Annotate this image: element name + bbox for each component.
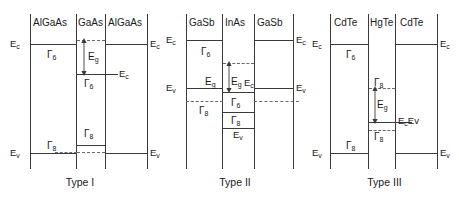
interface-line-outer-left [330,14,331,169]
spin-orbit-reference-dashed-left [186,101,223,102]
label-Ec-left-outer: Ec [10,39,20,50]
gamma-6-barrier-left: Γ6 [346,49,355,61]
conduction-edge-barrier-right [105,44,148,45]
gamma-6-barrier-left: Γ6 [201,46,210,58]
well-valence-reference-dashed [77,152,105,153]
conduction-edge-barrier-right [254,40,294,41]
gamma-8-well: Γ8 [231,115,240,127]
conduction-edge-barrier-right [395,44,438,45]
gamma-8-well-lower: Γ8 [374,131,383,143]
material-label-right: GaSb [257,17,283,28]
caption-type-i: Type I [0,176,160,188]
panel-type-ii: GaSb InAs GaSb Ec Ev Ec Ev Eg Eg Ec [160,0,310,198]
interface-line-inner-right [254,14,255,169]
label-Ev-right-outer: Ev [440,148,450,159]
label-Ec-right-outer: Ec [296,35,306,46]
gamma-8-well: Γ8 [84,128,93,140]
conduction-edge-barrier-left [30,44,77,45]
caption-type-iii: Type III [310,176,459,188]
valence-edge-well [77,145,105,146]
label-Ec-right-outer: Ec [150,39,160,50]
material-label-well: GaAs [78,17,103,28]
gamma-6-well: Γ6 [84,78,93,90]
material-label-well: InAs [225,17,245,28]
material-label-left: CdTe [334,17,357,28]
label-Ev-left-outer: Ev [166,83,176,94]
interface-line-outer-right [293,14,294,169]
gamma-6-barrier-left: Γ6 [47,49,56,61]
band-diagram-figure: AlGaAs GaAs AlGaAs Ec Ev Ec Ev Ec Eg [0,0,459,198]
valence-edge-barrier-right [105,153,148,154]
label-Eg-well: Eg [377,99,388,111]
interface-line-inner-right [105,14,106,169]
label-Ev-right-outer: Ev [150,148,160,159]
valence-edge-barrier-left [30,153,77,154]
valence-edge-barrier-right [395,153,438,154]
interface-line-inner-right [395,14,396,169]
material-label-well: HgTe [370,17,393,28]
interface-line-outer-left [186,14,187,169]
label-Ec-left-outer: Ec [312,39,322,50]
interface-line-outer-right [147,14,148,169]
label-Ec-Ev-crossing: EcEv [398,116,419,127]
barrier-valence-reference-dashed [55,152,77,153]
spin-orbit-reference-dashed-right [254,101,299,102]
label-Ev-well: Ev [233,130,243,141]
caption-type-ii: Type II [160,176,310,188]
panel-type-i: AlGaAs GaAs AlGaAs Ec Ev Ec Ev Ec Eg [0,0,160,198]
label-Ev-right-outer: Ev [296,83,306,94]
gamma-8-barrier-left: Γ8 [199,105,208,117]
label-Eg-well: Eg [231,76,242,88]
gamma-8-barrier-left: Γ8 [47,140,56,152]
conduction-edge-barrier-left [330,44,369,45]
label-Ec-well: Ec [244,78,254,89]
material-label-right: AlGaAs [108,17,142,28]
gamma-8-well-upper: Γ8 [374,77,383,89]
interface-line-inner-left [368,14,369,169]
label-Eg-well: Eg [88,51,99,63]
valence-edge-barrier-right [254,88,294,89]
interface-line-outer-left [30,14,31,169]
material-label-left: GaSb [189,17,215,28]
valence-edge-well [223,112,254,113]
gamma-6-well: Γ6 [231,97,240,109]
valence-edge-barrier-left [330,153,369,154]
label-Ev-left-outer: Ev [312,148,322,159]
material-label-right: CdTe [400,17,423,28]
label-Ev-left-outer: Ev [10,148,20,159]
label-Ev-well: Ec [119,69,129,80]
label-Eg-barrier: Eg [205,76,216,88]
label-Ec-right-outer: Ec [440,39,450,50]
label-Ec-left-outer: Ec [166,35,176,46]
panel-type-iii: CdTe HgTe CdTe Ec Ev Ec Ev Eg EcEv Γ6 Γ8… [310,0,459,198]
gamma-8-barrier-left: Γ8 [346,140,355,152]
material-label-left: AlGaAs [33,17,67,28]
conduction-edge-barrier-left [186,40,223,41]
valence-edge-barrier-left [186,88,223,89]
interface-line-outer-right [437,14,438,169]
